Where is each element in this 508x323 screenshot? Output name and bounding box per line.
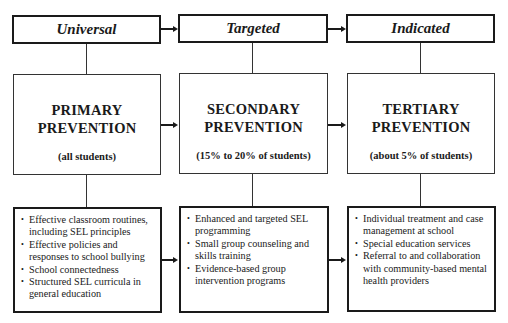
arrow-secondary-tertiary: [328, 124, 341, 126]
header-label: Universal: [57, 21, 117, 38]
header-indicated: Indicated: [346, 14, 495, 43]
arrowhead-icon: [341, 122, 346, 128]
tier-population: (15% to 20% of students): [196, 150, 310, 161]
list-item: Small group counseling and skills traini…: [187, 238, 323, 263]
list-item: Effective classroom routines, including …: [21, 214, 156, 239]
connector-targeted-secondary: [252, 42, 253, 73]
list-item: Structured SEL curricula in general educ…: [21, 276, 156, 301]
arrow-list1-list2: [162, 259, 173, 261]
header-targeted: Targeted: [178, 14, 328, 43]
connector-primary-list: [86, 174, 87, 207]
connector-tertiary-list: [420, 173, 421, 206]
tier-title: TERTIARY PREVENTION: [372, 100, 471, 136]
header-label: Indicated: [391, 20, 449, 37]
header-label: Targeted: [226, 20, 280, 37]
arrowhead-icon: [173, 122, 178, 128]
list-item: Referral to and collaboration with commu…: [355, 250, 490, 287]
header-universal: Universal: [12, 15, 161, 44]
primary-prevention-box: PRIMARY PREVENTION (all students): [13, 74, 161, 175]
tier-title: SECONDARY PREVENTION: [204, 100, 303, 136]
secondary-prevention-box: SECONDARY PREVENTION (15% to 20% of stud…: [179, 73, 328, 174]
primary-interventions-list: Effective classroom routines, including …: [13, 207, 162, 313]
tier-population: (all students): [58, 151, 116, 162]
list-item: Effective policies and responses to scho…: [21, 239, 156, 264]
tier-population: (about 5% of students): [370, 150, 472, 161]
arrow-universal-targeted: [161, 28, 173, 30]
tertiary-prevention-box: TERTIARY PREVENTION (about 5% of student…: [347, 73, 495, 174]
list-item: Individual treatment and case management…: [355, 213, 490, 238]
secondary-interventions-list: Enhanced and targeted SEL programming Sm…: [179, 206, 329, 313]
list-item: Evidence-based group intervention progra…: [187, 263, 323, 288]
arrow-primary-secondary: [161, 124, 173, 126]
arrow-list2-list3: [329, 259, 341, 261]
list-item: Special education services: [355, 238, 490, 250]
arrow-targeted-indicated: [328, 28, 341, 30]
connector-secondary-list: [252, 173, 253, 206]
tier-title: PRIMARY PREVENTION: [38, 101, 137, 137]
list-item: Enhanced and targeted SEL programming: [187, 213, 323, 238]
connector-indicated-tertiary: [420, 42, 421, 73]
arrowhead-icon: [341, 257, 346, 263]
connector-universal-primary: [86, 43, 87, 74]
tertiary-interventions-list: Individual treatment and case management…: [347, 206, 496, 312]
list-item: School connectedness: [21, 264, 156, 276]
arrowhead-icon: [173, 257, 178, 263]
